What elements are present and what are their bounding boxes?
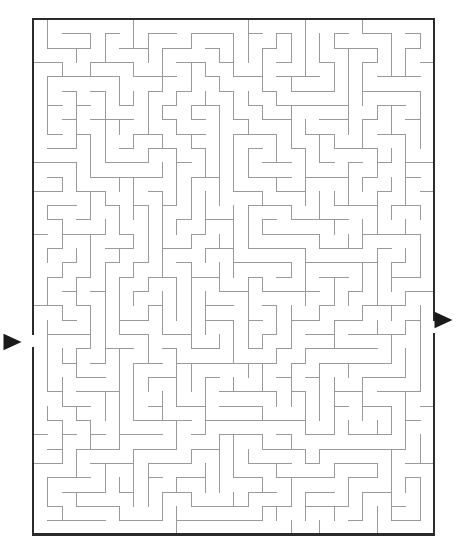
maze-canvas (0, 0, 472, 557)
maze-figure (0, 0, 472, 557)
maze-background (0, 0, 472, 557)
